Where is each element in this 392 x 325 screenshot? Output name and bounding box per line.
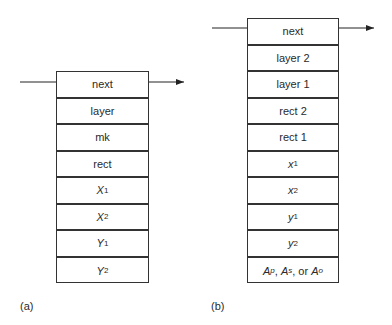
field-rect-2: rect 2 [248,99,338,126]
field-layer-2: layer 2 [248,46,338,73]
field-y2: y2 [248,231,338,258]
field-x2: X2 [57,205,148,232]
field-rect-1: rect 1 [248,125,338,152]
caption-a: (a) [20,300,33,312]
field-next: next [248,19,338,46]
field-x1: X1 [57,178,148,205]
field-y1: y1 [248,205,338,232]
field-rect: rect [57,152,148,179]
record-a: next layer mk rect X1 X2 Y1 Y2 [56,71,149,283]
record-b: next layer 2 layer 1 rect 2 rect 1 x1 x2… [247,18,339,283]
field-y2: Y2 [57,258,148,285]
field-mk: mk [57,125,148,152]
caption-b: (b) [211,300,224,312]
field-x2: x2 [248,178,338,205]
field-area: Ap, As, or Ao [248,258,338,285]
field-layer-1: layer 1 [248,72,338,99]
field-layer: layer [57,99,148,126]
field-y1: Y1 [57,231,148,258]
field-next: next [57,72,148,99]
field-x1: x1 [248,152,338,179]
sep: , or [292,265,311,277]
